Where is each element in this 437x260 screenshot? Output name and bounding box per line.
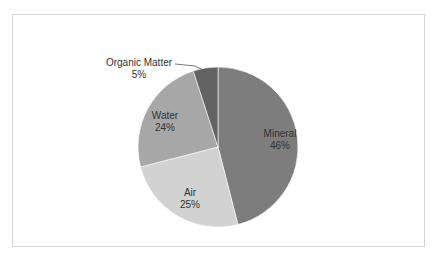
label-air: Air 25% [170, 187, 210, 211]
label-mineral-name: Mineral [250, 128, 310, 140]
label-organic: Organic Matter 5% [100, 57, 178, 81]
label-organic-pct: 5% [100, 69, 178, 81]
pie-chart [0, 0, 437, 260]
label-water-name: Water [145, 110, 185, 122]
label-water-pct: 24% [145, 122, 185, 134]
label-air-pct: 25% [170, 199, 210, 211]
label-mineral-pct: 46% [250, 140, 310, 152]
label-mineral: Mineral 46% [250, 128, 310, 152]
label-air-name: Air [170, 187, 210, 199]
label-water: Water 24% [145, 110, 185, 134]
label-organic-name: Organic Matter [100, 57, 178, 69]
